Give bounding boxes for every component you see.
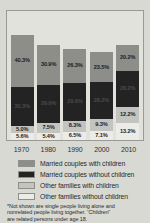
bar-segment: 28.2%: [116, 71, 139, 107]
bar-segment: 9.3%: [90, 119, 113, 131]
bar-segment: 6.5%: [63, 132, 86, 140]
x-axis-tick-1980: 1980: [37, 146, 60, 153]
bar-segment-label: 40.3%: [15, 58, 30, 64]
bar-segment-label: 12.2%: [120, 112, 135, 118]
bar-segment-label: 28.2%: [120, 86, 135, 92]
bar-segment: 12.2%: [116, 107, 139, 123]
bar-segment-label: 7.5%: [42, 125, 54, 131]
bar-segment-label: 30.3%: [15, 104, 30, 110]
bar-column-1990: 26.3%29.6%8.3%6.5%: [63, 11, 86, 140]
bar-segment: 40.3%: [11, 35, 34, 87]
bar-segment-label: 5.6%: [16, 134, 28, 140]
x-axis-tick-1990: 1990: [63, 146, 86, 153]
bar-segment: 5.6%: [11, 133, 34, 140]
bar-segment: 8.3%: [63, 121, 86, 132]
bar-segment: 5.4%: [37, 133, 60, 140]
bar-segment-label: 9.3%: [95, 122, 107, 128]
bar-segment: 7.5%: [37, 123, 60, 133]
x-axis-tick-1970: 1970: [10, 146, 33, 153]
footnote-line-3: are related persons under age 18.: [7, 216, 145, 222]
bar-segment-label: 5.4%: [42, 134, 54, 140]
bar-segment-label: 7.1%: [95, 133, 107, 139]
bar-segment-label: 28.2%: [94, 98, 109, 104]
chart-legend: Married couples with childrenMarried cou…: [18, 158, 144, 202]
bar-segment: 7.1%: [90, 131, 113, 140]
bar-segment: 29.9%: [37, 85, 60, 124]
bar-column-2010: 20.2%28.2%12.2%13.2%: [116, 11, 139, 140]
bar-segment: 20.2%: [116, 45, 139, 71]
bar-column-1980: 30.9%29.9%7.5%5.4%: [37, 11, 60, 140]
bar-segment: 13.2%: [116, 123, 139, 140]
bars-container: 40.3%30.3%5.0%5.6%30.9%29.9%7.5%5.4%26.3…: [7, 11, 143, 140]
x-axis-tick-2000: 2000: [90, 146, 113, 153]
bar-column-1970: 40.3%30.3%5.0%5.6%: [11, 11, 34, 140]
legend-item-label: Married couples without children: [40, 171, 134, 178]
bar-segment: 28.2%: [90, 82, 113, 118]
bar-segment: 29.6%: [63, 83, 86, 121]
chart-page: 40.3%30.3%5.0%5.6%30.9%29.9%7.5%5.4%26.3…: [0, 0, 150, 223]
legend-item: Other families with children: [18, 180, 144, 191]
legend-item-label: Married couples with children: [40, 160, 125, 167]
bar-segment: 23.5%: [90, 52, 113, 82]
legend-color-swatch: [18, 171, 35, 178]
bar-segment-label: 30.9%: [41, 62, 56, 68]
legend-item-label: Other families with children: [40, 182, 119, 189]
legend-item: Other families without children: [18, 191, 144, 202]
legend-item: Married couples with children: [18, 158, 144, 169]
bar-segment-label: 20.2%: [120, 55, 135, 61]
legend-item-label: Other families without children: [40, 193, 128, 200]
bar-column-2000: 23.5%28.2%9.3%7.1%: [90, 11, 113, 140]
bar-segment-label: 8.3%: [69, 123, 81, 129]
bar-segment-label: 13.2%: [120, 129, 135, 135]
bar-segment: 30.9%: [37, 45, 60, 85]
bar-segment-label: 29.9%: [41, 101, 56, 107]
plot-area: 40.3%30.3%5.0%5.6%30.9%29.9%7.5%5.4%26.3…: [6, 10, 144, 141]
legend-color-swatch: [18, 182, 35, 189]
legend-color-swatch: [18, 193, 35, 200]
bar-segment-label: 5.0%: [16, 127, 28, 133]
x-axis-tick-labels: 19701980199020002010: [6, 143, 144, 155]
bar-segment: 30.3%: [11, 87, 34, 126]
x-axis-tick-2010: 2010: [117, 146, 140, 153]
legend-color-swatch: [18, 160, 35, 167]
bar-segment-label: 23.5%: [94, 65, 109, 71]
legend-item: Married couples without children: [18, 169, 144, 180]
bar-segment-label: 29.6%: [67, 99, 82, 105]
bar-segment-label: 26.3%: [67, 63, 82, 69]
bar-segment-label: 6.5%: [69, 133, 81, 139]
bar-segment: 26.3%: [63, 49, 86, 83]
footnote: *Not shown are single people living alon…: [7, 203, 145, 222]
